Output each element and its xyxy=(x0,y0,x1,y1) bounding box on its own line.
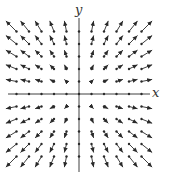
vector-arrow xyxy=(21,21,30,32)
vector-arrow xyxy=(35,119,41,123)
vector-arrow xyxy=(104,157,108,168)
vector-arrow xyxy=(117,144,123,153)
vector-arrow xyxy=(142,132,153,138)
vector-arrow xyxy=(142,21,153,32)
vector-base-dot xyxy=(40,93,42,95)
vector-base-dot xyxy=(78,68,80,70)
vector-arrow xyxy=(142,79,153,81)
vector-arrow xyxy=(117,50,123,56)
vector-base-dot xyxy=(15,93,17,95)
vector-arrow xyxy=(6,79,17,81)
vector-arrow xyxy=(35,132,41,138)
vector-arrow xyxy=(104,144,108,153)
vector-base-dot xyxy=(140,93,142,95)
vector-arrow xyxy=(50,21,54,32)
vector-arrow xyxy=(64,132,66,138)
vector-arrow xyxy=(21,144,30,153)
vector-arrow xyxy=(6,50,17,56)
vector-arrow xyxy=(21,119,30,123)
vector-arrow xyxy=(50,157,54,168)
vector-arrow xyxy=(104,107,108,109)
vector-field-diagram xyxy=(0,0,170,179)
vector-arrow xyxy=(6,157,17,168)
vector-arrow xyxy=(104,21,108,32)
vector-arrow xyxy=(50,79,54,81)
vector-arrow xyxy=(35,144,41,153)
vector-arrow xyxy=(92,36,94,45)
vector-arrow xyxy=(104,132,108,138)
vector-arrow xyxy=(50,119,54,123)
vector-base-dot xyxy=(78,43,80,45)
vector-base-dot xyxy=(78,80,80,82)
vector-arrow xyxy=(64,50,66,56)
vector-arrow xyxy=(117,36,123,45)
vector-arrow xyxy=(21,65,30,69)
vector-arrow xyxy=(104,65,108,69)
vector-arrow xyxy=(129,132,138,138)
vector-arrow xyxy=(64,21,66,32)
vector-arrow xyxy=(21,79,30,81)
vector-base-dot xyxy=(65,93,67,95)
vector-arrow xyxy=(104,36,108,45)
vector-arrow xyxy=(117,21,123,32)
vector-arrow xyxy=(35,65,41,69)
vector-arrow xyxy=(117,107,123,109)
vector-arrow xyxy=(129,65,138,69)
vector-arrow xyxy=(35,157,41,168)
vector-arrow xyxy=(21,132,30,138)
vector-arrow xyxy=(92,144,94,153)
vector-base-dot xyxy=(128,93,130,95)
vector-arrow xyxy=(50,107,54,109)
vector-arrow xyxy=(142,50,153,56)
vector-arrow xyxy=(21,50,30,56)
vector-arrow xyxy=(21,157,30,168)
vector-arrow xyxy=(117,65,123,69)
vector-arrow xyxy=(92,50,94,56)
vector-arrow xyxy=(129,36,138,45)
vector-arrow xyxy=(64,144,66,153)
vector-arrow xyxy=(50,50,54,56)
vector-arrow xyxy=(6,65,17,69)
vector-arrow xyxy=(92,119,94,123)
vector-base-dot xyxy=(78,105,80,107)
vector-arrow xyxy=(21,36,30,45)
vector-arrow xyxy=(142,65,153,69)
vector-arrow xyxy=(6,132,17,138)
vector-base-dot xyxy=(53,93,55,95)
vector-base-dot xyxy=(115,93,117,95)
vector-base-dot xyxy=(78,155,80,157)
vector-base-dot xyxy=(78,30,80,32)
vector-arrow xyxy=(142,36,153,45)
vector-arrow xyxy=(35,79,41,81)
vector-base-dot xyxy=(103,93,105,95)
vector-arrow xyxy=(104,50,108,56)
vector-arrow xyxy=(6,107,17,109)
vector-arrow xyxy=(35,50,41,56)
vector-arrow xyxy=(117,157,123,168)
vector-arrow xyxy=(64,65,66,69)
vector-arrow xyxy=(50,65,54,69)
vector-arrow xyxy=(50,132,54,138)
vector-arrow xyxy=(6,144,17,153)
vector-arrow xyxy=(104,119,108,123)
vector-base-dot xyxy=(90,93,92,95)
vector-arrow xyxy=(142,157,153,168)
vector-arrow xyxy=(92,21,94,32)
vector-arrow xyxy=(50,36,54,45)
vector-arrow xyxy=(92,132,94,138)
vector-arrow xyxy=(50,144,54,153)
vector-arrow xyxy=(142,119,153,123)
vector-arrow xyxy=(6,21,17,32)
vector-arrow xyxy=(129,107,138,109)
vector-arrow xyxy=(6,36,17,45)
vector-arrow xyxy=(6,119,17,123)
vector-arrow xyxy=(92,157,94,168)
vector-arrow xyxy=(35,21,41,32)
vector-arrow xyxy=(129,79,138,81)
vector-arrow xyxy=(35,36,41,45)
x-axis-label: x xyxy=(152,86,159,99)
vector-arrow xyxy=(117,119,123,123)
vector-arrow xyxy=(21,107,30,109)
vector-arrow xyxy=(35,107,41,109)
y-axis-label: y xyxy=(75,3,82,16)
